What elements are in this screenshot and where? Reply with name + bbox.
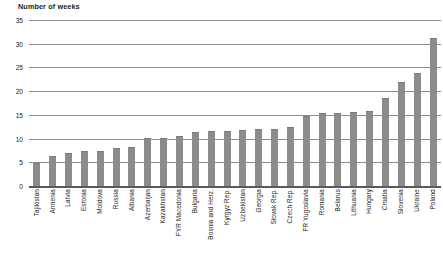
bar-slot — [92, 20, 108, 186]
x-axis-tick-label: Georgia — [256, 189, 262, 212]
bar[interactable] — [208, 131, 215, 186]
bar-slot — [156, 20, 172, 186]
bar[interactable] — [160, 138, 167, 186]
x-label-slot: FYR Macedonia — [172, 188, 188, 256]
x-axis-tick-label: Lithuania — [351, 189, 357, 216]
y-axis: 05101520253035 — [0, 20, 27, 186]
bar-slot — [251, 20, 267, 186]
x-label-slot: Slovenia — [393, 188, 409, 256]
x-axis-tick-label: Armenia — [50, 189, 56, 214]
x-axis-tick-label: Poland — [430, 189, 436, 210]
bar-slot — [124, 20, 140, 186]
x-label-slot: Bulgaria — [187, 188, 203, 256]
x-axis: TajikistanArmeniaLatviaEstoniaMoldovaRus… — [29, 188, 441, 256]
bar-slot — [172, 20, 188, 186]
y-axis-tick-label: 30 — [16, 40, 23, 47]
bar-slot — [108, 20, 124, 186]
bar[interactable] — [144, 138, 151, 186]
bar-slot — [45, 20, 61, 186]
x-axis-tick-label: Moldova — [97, 189, 103, 214]
bar-slot — [314, 20, 330, 186]
bar[interactable] — [350, 112, 357, 187]
x-label-slot: Belarus — [330, 188, 346, 256]
x-axis-tick-label: Bosnia and Herz. — [208, 189, 214, 240]
y-axis-tick-label: 10 — [16, 135, 23, 142]
bar[interactable] — [97, 151, 104, 186]
bar-slot — [235, 20, 251, 186]
x-label-slot: Czech Rep. — [283, 188, 299, 256]
bar[interactable] — [255, 129, 262, 186]
bar[interactable] — [334, 113, 341, 186]
bar[interactable] — [49, 156, 56, 186]
x-axis-tick-label: Hungary — [366, 189, 372, 214]
bar[interactable] — [33, 163, 40, 186]
x-label-slot: Uzbekistan — [235, 188, 251, 256]
x-label-slot: Poland — [425, 188, 441, 256]
x-label-slot: Romania — [314, 188, 330, 256]
x-axis-tick-label: Ukraine — [414, 189, 420, 212]
bar-slot — [409, 20, 425, 186]
x-axis-tick-label: Romania — [319, 189, 325, 215]
bar[interactable] — [192, 132, 199, 186]
bar-slot — [283, 20, 299, 186]
x-axis-tick-label: Russia — [113, 189, 119, 209]
bar[interactable] — [430, 38, 437, 186]
bar[interactable] — [65, 153, 72, 186]
bar[interactable] — [398, 82, 405, 186]
bar-slot — [346, 20, 362, 186]
x-axis-tick-label: Bulgaria — [192, 189, 198, 213]
bar[interactable] — [366, 111, 373, 186]
bar[interactable] — [382, 98, 389, 186]
y-axis-tick-label: 15 — [16, 111, 23, 118]
x-label-slot: Russia — [108, 188, 124, 256]
x-label-slot: Tajikistan — [29, 188, 45, 256]
bar-slot — [393, 20, 409, 186]
x-label-slot: Armenia — [45, 188, 61, 256]
y-axis-tick-label: 5 — [19, 159, 23, 166]
x-label-slot: Ukraine — [409, 188, 425, 256]
bar-slot — [330, 20, 346, 186]
bar[interactable] — [128, 147, 135, 186]
x-label-slot: Latvia — [61, 188, 77, 256]
y-axis-tick-label: 0 — [19, 183, 23, 190]
bar-slot — [77, 20, 93, 186]
x-label-slot: Georgia — [251, 188, 267, 256]
bar-slot — [29, 20, 45, 186]
bar-slot — [378, 20, 394, 186]
x-axis-tick-label: FYR Macedonia — [176, 189, 182, 236]
bar-chart: Number of weeks 05101520253035 Tajikista… — [0, 0, 443, 257]
x-axis-tick-label: FR Yugoslavia — [303, 189, 309, 231]
x-label-slot: FR Yugoslavia — [298, 188, 314, 256]
bar[interactable] — [81, 151, 88, 186]
y-axis-tick-label: 35 — [16, 17, 23, 24]
y-axis-tick-label: 20 — [16, 88, 23, 95]
x-axis-tick-label: Latvia — [65, 189, 71, 207]
x-axis-tick-label: Uzbekistan — [240, 189, 246, 222]
bar-slot — [61, 20, 77, 186]
x-label-slot: Bosnia and Herz. — [203, 188, 219, 256]
x-label-slot: Moldova — [92, 188, 108, 256]
x-axis-tick-label: Tajikistan — [34, 189, 40, 216]
x-axis-tick-label: Albania — [129, 189, 135, 211]
bar[interactable] — [287, 127, 294, 186]
x-axis-tick-label: Slovak Rep. — [271, 189, 277, 225]
bar-slot — [219, 20, 235, 186]
bar[interactable] — [224, 131, 231, 186]
bar[interactable] — [303, 116, 310, 186]
x-label-slot: Lithuania — [346, 188, 362, 256]
bar[interactable] — [319, 113, 326, 186]
x-axis-tick-label: Croatia — [382, 189, 388, 210]
bar[interactable] — [271, 129, 278, 186]
x-axis-tick-label: Kyrgyz Rep. — [224, 189, 230, 225]
x-label-slot: Hungary — [362, 188, 378, 256]
bar[interactable] — [239, 130, 246, 186]
x-label-slot: Kazakhstan — [156, 188, 172, 256]
bar-slot — [203, 20, 219, 186]
bar-slot — [140, 20, 156, 186]
x-label-slot: Estonia — [77, 188, 93, 256]
bar[interactable] — [176, 136, 183, 186]
bar[interactable] — [414, 73, 421, 186]
bar[interactable] — [113, 148, 120, 186]
bar-series — [29, 20, 441, 186]
x-label-slot: Slovak Rep. — [267, 188, 283, 256]
